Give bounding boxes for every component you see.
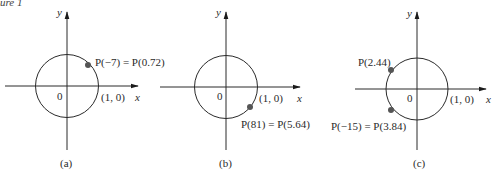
x-axis-label: x: [296, 92, 302, 104]
y-axis-label: y: [215, 6, 221, 18]
panel-caption: (a): [60, 157, 73, 170]
point-marker: [247, 104, 253, 110]
unit-point-label: (1, 0): [101, 91, 125, 104]
unit-circle-figure: y x 0 (1, 0) P(−7) = P(0.72) (a) y x 0 (…: [0, 0, 494, 176]
panel-a: y x 0 (1, 0) P(−7) = P(0.72) (a): [5, 6, 165, 170]
point-marker: [388, 107, 394, 113]
x-axis-label: x: [485, 93, 491, 105]
point-label: P(−7) = P(0.72): [95, 56, 165, 69]
point-label: P(81) = P(5.64): [241, 118, 310, 131]
point-label: P(−15) = P(3.84): [331, 120, 406, 133]
x-axis-label: x: [134, 91, 140, 103]
panel-b: y x 0 (1, 0) P(81) = P(5.64) (b): [160, 6, 310, 170]
panel-caption: (c): [413, 157, 426, 170]
unit-point-label: (1, 0): [450, 93, 474, 106]
y-axis-label: y: [56, 6, 62, 18]
point-label: P(2.44): [358, 56, 391, 69]
point-marker: [85, 62, 91, 68]
y-axis-label: y: [406, 7, 412, 19]
origin-label: 0: [57, 90, 63, 102]
origin-label: 0: [217, 90, 223, 102]
origin-label: 0: [407, 92, 413, 104]
panel-caption: (b): [219, 157, 232, 170]
panel-c: y x 0 (1, 0) P(2.44) P(−15) = P(3.84) (c…: [331, 7, 491, 170]
unit-point-label: (1, 0): [259, 92, 283, 105]
